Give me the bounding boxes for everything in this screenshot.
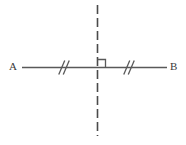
point-label-b: B bbox=[170, 61, 177, 72]
point-label-a: A bbox=[9, 61, 17, 72]
geometry-figure-canvas: A B bbox=[0, 0, 186, 145]
right-angle-marker-icon bbox=[98, 60, 106, 68]
geometry-diagram-svg bbox=[0, 0, 186, 145]
